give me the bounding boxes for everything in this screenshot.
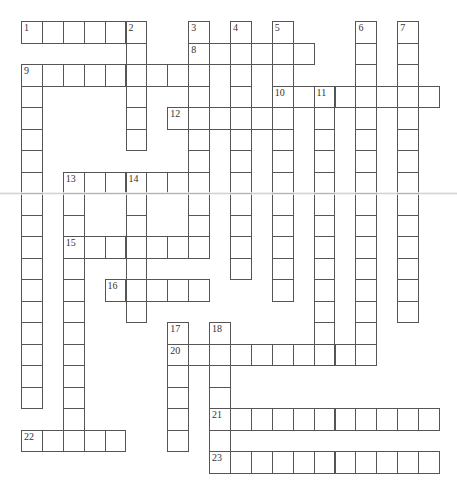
- crossword-cell[interactable]: [21, 387, 43, 410]
- crossword-cell[interactable]: [209, 43, 231, 66]
- crossword-cell[interactable]: 13: [63, 172, 85, 195]
- crossword-cell[interactable]: [21, 107, 43, 130]
- crossword-cell[interactable]: [21, 215, 43, 238]
- crossword-cell[interactable]: [314, 129, 336, 152]
- crossword-cell[interactable]: [272, 193, 294, 216]
- crossword-cell[interactable]: [21, 301, 43, 324]
- crossword-cell[interactable]: [376, 451, 398, 474]
- crossword-cell[interactable]: [188, 215, 210, 238]
- crossword-cell[interactable]: 15: [63, 236, 85, 259]
- crossword-cell[interactable]: [251, 107, 273, 130]
- crossword-cell[interactable]: [397, 279, 419, 302]
- crossword-cell[interactable]: [167, 236, 189, 259]
- crossword-cell[interactable]: [397, 236, 419, 259]
- crossword-cell[interactable]: [230, 236, 252, 259]
- crossword-cell[interactable]: [105, 236, 127, 259]
- crossword-cell[interactable]: [21, 322, 43, 345]
- crossword-cell[interactable]: [188, 344, 210, 367]
- crossword-cell[interactable]: [126, 86, 148, 109]
- crossword-cell[interactable]: [355, 172, 377, 195]
- crossword-cell[interactable]: [167, 172, 189, 195]
- crossword-cell[interactable]: [167, 64, 189, 87]
- crossword-cell[interactable]: [272, 172, 294, 195]
- crossword-cell[interactable]: [63, 387, 85, 410]
- crossword-cell[interactable]: [335, 408, 357, 431]
- crossword-cell[interactable]: [146, 172, 168, 195]
- crossword-cell[interactable]: [63, 365, 85, 388]
- crossword-cell[interactable]: [126, 301, 148, 324]
- crossword-cell[interactable]: [355, 279, 377, 302]
- crossword-cell[interactable]: [209, 387, 231, 410]
- crossword-cell[interactable]: [63, 344, 85, 367]
- crossword-cell[interactable]: [251, 451, 273, 474]
- crossword-cell[interactable]: [126, 43, 148, 66]
- crossword-cell[interactable]: [397, 150, 419, 173]
- crossword-cell[interactable]: 12: [167, 107, 189, 130]
- crossword-cell[interactable]: [42, 64, 64, 87]
- crossword-cell[interactable]: [397, 258, 419, 281]
- crossword-cell[interactable]: 23: [209, 451, 231, 474]
- crossword-cell[interactable]: [126, 193, 148, 216]
- crossword-cell[interactable]: [418, 408, 440, 431]
- crossword-cell[interactable]: 11: [314, 86, 336, 109]
- crossword-cell[interactable]: [293, 43, 315, 66]
- crossword-cell[interactable]: [63, 408, 85, 431]
- crossword-cell[interactable]: [84, 64, 106, 87]
- crossword-cell[interactable]: [230, 193, 252, 216]
- crossword-cell[interactable]: [293, 451, 315, 474]
- crossword-cell[interactable]: [355, 215, 377, 238]
- crossword-cell[interactable]: [146, 236, 168, 259]
- crossword-cell[interactable]: [314, 172, 336, 195]
- crossword-cell[interactable]: [230, 64, 252, 87]
- crossword-cell[interactable]: [209, 430, 231, 453]
- crossword-cell[interactable]: [314, 215, 336, 238]
- crossword-cell[interactable]: 6: [355, 21, 377, 44]
- crossword-cell[interactable]: 5: [272, 21, 294, 44]
- crossword-cell[interactable]: [230, 150, 252, 173]
- crossword-cell[interactable]: [272, 43, 294, 66]
- crossword-cell[interactable]: [397, 172, 419, 195]
- crossword-cell[interactable]: [272, 344, 294, 367]
- crossword-cell[interactable]: [84, 430, 106, 453]
- crossword-cell[interactable]: [272, 258, 294, 281]
- crossword-cell[interactable]: [314, 193, 336, 216]
- crossword-cell[interactable]: [355, 64, 377, 87]
- crossword-cell[interactable]: [84, 21, 106, 44]
- crossword-cell[interactable]: 1: [21, 21, 43, 44]
- crossword-cell[interactable]: 16: [105, 279, 127, 302]
- crossword-cell[interactable]: [230, 86, 252, 109]
- crossword-cell[interactable]: [293, 86, 315, 109]
- crossword-cell[interactable]: [230, 43, 252, 66]
- crossword-cell[interactable]: [397, 215, 419, 238]
- crossword-cell[interactable]: 21: [209, 408, 231, 431]
- crossword-cell[interactable]: 9: [21, 64, 43, 87]
- crossword-cell[interactable]: [355, 236, 377, 259]
- crossword-cell[interactable]: [63, 279, 85, 302]
- crossword-cell[interactable]: 7: [397, 21, 419, 44]
- crossword-cell[interactable]: [42, 430, 64, 453]
- crossword-cell[interactable]: [188, 107, 210, 130]
- crossword-cell[interactable]: [272, 215, 294, 238]
- crossword-cell[interactable]: [167, 430, 189, 453]
- crossword-cell[interactable]: [209, 365, 231, 388]
- crossword-cell[interactable]: [188, 279, 210, 302]
- crossword-cell[interactable]: [126, 236, 148, 259]
- crossword-cell[interactable]: [293, 408, 315, 431]
- crossword-cell[interactable]: [126, 215, 148, 238]
- crossword-cell[interactable]: [63, 21, 85, 44]
- crossword-cell[interactable]: 22: [21, 430, 43, 453]
- crossword-cell[interactable]: [397, 451, 419, 474]
- crossword-cell[interactable]: [21, 172, 43, 195]
- crossword-cell[interactable]: [335, 86, 357, 109]
- crossword-cell[interactable]: [314, 451, 336, 474]
- crossword-cell[interactable]: [126, 279, 148, 302]
- crossword-cell[interactable]: [167, 408, 189, 431]
- crossword-cell[interactable]: [355, 344, 377, 367]
- crossword-cell[interactable]: [376, 86, 398, 109]
- crossword-cell[interactable]: [272, 129, 294, 152]
- crossword-cell[interactable]: [105, 430, 127, 453]
- crossword-cell[interactable]: [397, 64, 419, 87]
- crossword-cell[interactable]: [355, 193, 377, 216]
- crossword-cell[interactable]: 14: [126, 172, 148, 195]
- crossword-cell[interactable]: [272, 150, 294, 173]
